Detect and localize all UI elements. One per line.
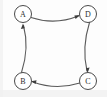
scan-artifact-left <box>0 0 3 97</box>
node-d[interactable]: D <box>80 6 97 23</box>
node-d-label: D <box>85 10 91 19</box>
edge-b-to-a <box>21 23 26 72</box>
edge-a-to-d-path <box>31 16 78 21</box>
edge-b-to-a-path <box>22 26 27 73</box>
graph-figure: A D B C <box>0 0 107 97</box>
edge-d-to-c-path <box>85 23 90 72</box>
edge-d-to-c <box>85 23 90 74</box>
node-a-label: A <box>20 10 26 19</box>
node-a[interactable]: A <box>15 6 32 23</box>
edge-c-to-b-path <box>33 82 80 87</box>
edge-c-to-b <box>31 80 80 86</box>
node-b-label: B <box>20 77 25 86</box>
node-b[interactable]: B <box>15 73 32 90</box>
node-c[interactable]: C <box>80 73 97 90</box>
graph-canvas: A D B C <box>0 0 107 97</box>
node-c-label: C <box>85 77 90 86</box>
edge-a-to-d <box>31 15 80 21</box>
